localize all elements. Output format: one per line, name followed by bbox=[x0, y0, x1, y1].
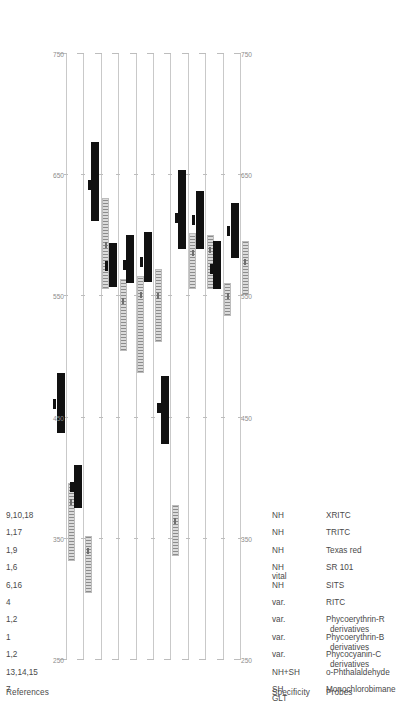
axis-tick bbox=[186, 417, 190, 418]
axis-tick-label: 550 bbox=[241, 293, 252, 300]
excitation-range-bar bbox=[224, 283, 231, 316]
emission-range-bar bbox=[178, 170, 186, 249]
axis-tick bbox=[64, 417, 68, 418]
probe-name-cell: Phycoerythrin-Rderivatives bbox=[326, 615, 385, 634]
axis-tick bbox=[203, 538, 207, 539]
probe-name-line1: TRITC bbox=[326, 528, 350, 537]
axis-tick bbox=[186, 538, 190, 539]
excitation-peak-marker bbox=[157, 293, 159, 299]
excitation-peak-marker bbox=[209, 247, 211, 253]
excitation-peak-marker bbox=[70, 499, 72, 505]
axis-tick bbox=[77, 53, 84, 54]
emission-range-bar bbox=[91, 143, 99, 222]
specificity-line2: vital bbox=[272, 573, 287, 582]
axis-tick bbox=[186, 295, 190, 296]
figure-rotation-wrapper: References 713,14,151,211,246,161,61,91,… bbox=[0, 0, 410, 702]
emission-range-bar bbox=[161, 376, 169, 444]
emission-peak-marker bbox=[105, 261, 108, 271]
probe-name-cell: SITS bbox=[326, 581, 344, 591]
axis-tick bbox=[130, 53, 137, 54]
axis-tick bbox=[203, 417, 207, 418]
axis-tick bbox=[81, 417, 85, 418]
axis-tick bbox=[112, 53, 119, 54]
specificity-line1: SH bbox=[272, 685, 283, 694]
axis-tick bbox=[116, 538, 120, 539]
axis-tick bbox=[81, 295, 85, 296]
axis-tick bbox=[151, 538, 155, 539]
axis-tick bbox=[81, 174, 85, 175]
emission-peak-marker bbox=[140, 257, 143, 267]
probe-name-line1: XRITC bbox=[326, 511, 351, 520]
axis-tick-label: 350 bbox=[241, 535, 252, 542]
axis-tick-label: 750 bbox=[53, 51, 64, 58]
axis-tick bbox=[134, 174, 138, 175]
axis-tick bbox=[217, 659, 224, 660]
axis-line bbox=[240, 54, 241, 660]
axis-tick bbox=[221, 174, 225, 175]
axis-tick-label: 350 bbox=[53, 535, 64, 542]
references-cell: 13,14,15 bbox=[6, 668, 38, 677]
axis-tick bbox=[199, 659, 206, 660]
excitation-peak-marker bbox=[244, 259, 246, 265]
references-cell: 7 bbox=[6, 685, 11, 694]
axis-tick bbox=[99, 295, 103, 296]
probe-spectra-figure: References 713,14,151,211,246,161,61,91,… bbox=[0, 0, 410, 702]
axis-tick bbox=[182, 659, 189, 660]
probe-name-line1: Phycoerythrin-R bbox=[326, 615, 385, 624]
emission-range-bar bbox=[231, 203, 239, 258]
axis-tick bbox=[164, 659, 171, 660]
specificity-line1: NH bbox=[272, 546, 284, 555]
references-cell: 1,9 bbox=[6, 546, 17, 555]
probe-name-cell: SR 101 bbox=[326, 563, 353, 573]
probe-name-line2: derivatives bbox=[326, 625, 385, 635]
probe-name-line1: Texas red bbox=[326, 546, 362, 555]
references-cell: 1 bbox=[6, 633, 11, 642]
axis-line bbox=[170, 54, 171, 660]
excitation-peak-marker bbox=[227, 293, 229, 299]
specificity-cell: NH bbox=[272, 581, 284, 590]
probe-name-line1: RITC bbox=[326, 598, 345, 607]
excitation-range-bar bbox=[172, 505, 179, 556]
axis-tick bbox=[168, 174, 172, 175]
axis-tick bbox=[99, 538, 103, 539]
references-cell: 1,2 bbox=[6, 615, 17, 624]
emission-peak-marker bbox=[70, 482, 73, 492]
axis-tick-label: 450 bbox=[241, 414, 252, 421]
axis-line bbox=[223, 54, 224, 660]
specificity-cell: var. bbox=[272, 633, 285, 642]
emission-range-bar bbox=[57, 373, 65, 434]
references-cell: 4 bbox=[6, 598, 11, 607]
references-cell: 1,17 bbox=[6, 528, 22, 537]
axis-tick-label: 550 bbox=[53, 293, 64, 300]
emission-range-bar bbox=[126, 235, 134, 283]
excitation-peak-marker bbox=[140, 292, 142, 298]
specificity-line1: var. bbox=[272, 615, 285, 624]
emission-range-bar bbox=[144, 232, 152, 282]
axis-tick bbox=[116, 174, 120, 175]
axis-tick bbox=[116, 417, 120, 418]
axis-tick bbox=[221, 417, 225, 418]
axis-line bbox=[101, 54, 102, 660]
axis-tick bbox=[203, 174, 207, 175]
probe-name-line2: derivatives bbox=[326, 660, 381, 670]
excitation-range-bar bbox=[120, 279, 127, 351]
axis-tick-label: 650 bbox=[241, 172, 252, 179]
axis-tick-label: 750 bbox=[241, 51, 252, 58]
axis-tick bbox=[99, 417, 103, 418]
specificity-line1: NH bbox=[272, 511, 284, 520]
axis-tick bbox=[168, 295, 172, 296]
emission-peak-marker bbox=[88, 180, 91, 190]
plot-area: 250350450550650750 250350450550650750 bbox=[52, 0, 266, 702]
emission-range-bar bbox=[74, 465, 82, 509]
axis-tick-label: 650 bbox=[53, 172, 64, 179]
excitation-peak-marker bbox=[122, 298, 124, 304]
figure-landscape: References 713,14,151,211,246,161,61,91,… bbox=[0, 0, 410, 702]
axis-tick bbox=[130, 659, 137, 660]
probe-name-cell: XRITC bbox=[326, 511, 351, 521]
probe-name-cell: RITC bbox=[326, 598, 345, 608]
excitation-peak-marker bbox=[105, 243, 107, 249]
references-cell: 1,6 bbox=[6, 563, 17, 572]
excitation-range-bar bbox=[155, 269, 162, 343]
emission-peak-marker bbox=[175, 213, 178, 223]
excitation-peak-marker bbox=[87, 548, 89, 554]
